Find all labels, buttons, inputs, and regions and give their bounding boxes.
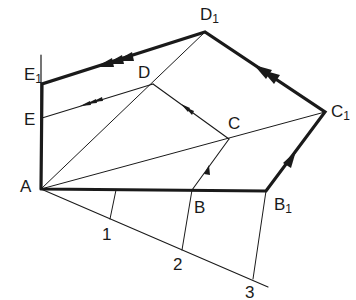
label-B1: B1 — [274, 196, 292, 215]
label-C: C — [228, 115, 240, 132]
label-D1: D1 — [200, 6, 219, 25]
label-B: B — [194, 199, 205, 216]
line-2-B — [182, 190, 192, 250]
line-3-B1 — [253, 191, 266, 279]
line-1-AB — [110, 190, 116, 219]
label-E1: E1 — [24, 66, 42, 85]
thick-polygon-A-B1-C1-D1-E1 — [41, 32, 325, 191]
label-E: E — [24, 111, 35, 128]
arrowheads — [80, 52, 296, 175]
arrow-icon — [116, 52, 134, 61]
division-ray — [41, 189, 268, 287]
label-D: D — [138, 64, 150, 81]
diagram-canvas: E1 E A D D1 C C1 B B1 1 2 3 — [0, 0, 356, 300]
label-2: 2 — [173, 256, 182, 273]
arrow-icon — [92, 97, 103, 102]
label-A: A — [20, 178, 31, 195]
label-C1: C1 — [331, 103, 350, 122]
label-1: 1 — [102, 226, 111, 243]
arrow-icon — [204, 165, 210, 175]
line-A-C1 — [41, 112, 325, 189]
label-3: 3 — [245, 284, 254, 300]
